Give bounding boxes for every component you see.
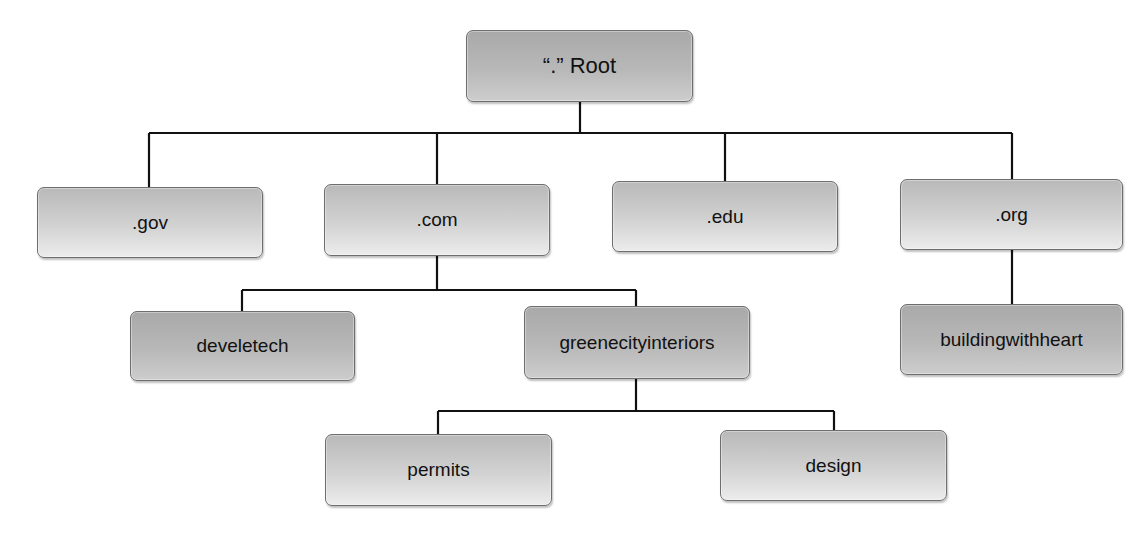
node-buildingwithheart: buildingwithheart — [900, 304, 1123, 375]
node-develetech: develetech — [130, 311, 355, 381]
node-root-label: “.” Root — [543, 53, 616, 79]
node-buildingwithheart-label: buildingwithheart — [940, 329, 1083, 351]
node-gov-label: .gov — [132, 212, 168, 234]
node-develetech-label: develetech — [197, 335, 289, 357]
node-design-label: design — [806, 455, 862, 477]
node-org-label: .org — [995, 204, 1028, 226]
node-edu-label: .edu — [707, 206, 744, 228]
node-greenecityinteriors-label: greenecityinteriors — [559, 332, 714, 354]
node-com: .com — [324, 184, 550, 256]
node-gov: .gov — [37, 187, 263, 258]
node-com-label: .com — [416, 209, 457, 231]
node-greenecityinteriors: greenecityinteriors — [524, 306, 750, 379]
node-permits: permits — [325, 434, 552, 506]
node-design: design — [720, 430, 947, 501]
node-permits-label: permits — [407, 459, 469, 481]
dns-tree-diagram: “.” Root .gov .com .edu .org develetech … — [0, 0, 1148, 534]
node-edu: .edu — [612, 181, 838, 252]
node-root: “.” Root — [466, 30, 693, 102]
node-org: .org — [900, 179, 1123, 250]
